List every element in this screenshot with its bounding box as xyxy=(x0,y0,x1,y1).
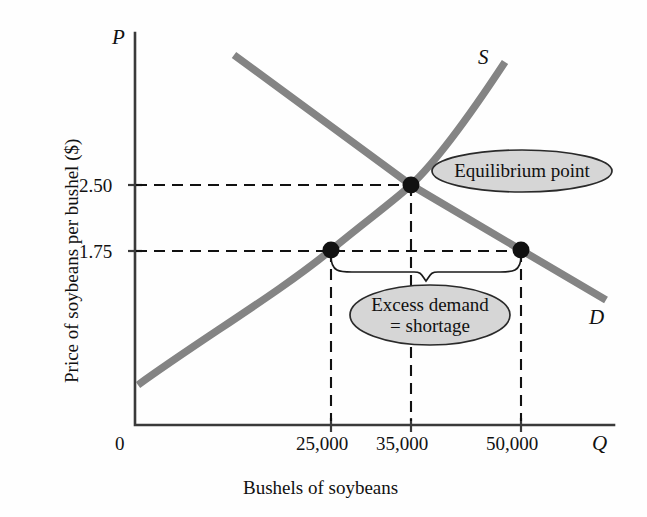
demand-curve-label: D xyxy=(589,307,604,328)
equilibrium-dot xyxy=(403,177,420,194)
y-axis-title: Price of soybeans per bushel ($) xyxy=(62,139,81,383)
x-tick-label-35000: 35,000 xyxy=(376,434,428,453)
origin-label: 0 xyxy=(115,434,125,453)
y-axis-symbol: P xyxy=(112,27,125,48)
x-tick-label-50000: 50,000 xyxy=(486,434,538,453)
x-axis-symbol: Q xyxy=(592,433,607,454)
y-tick-label-175: 1.75 xyxy=(79,242,112,261)
x-axis-title: Bushels of soybeans xyxy=(243,478,398,497)
excess-demand-callout-ellipse xyxy=(350,285,510,345)
axes xyxy=(135,33,614,425)
y-tick-label-250: 2.50 xyxy=(79,176,112,195)
excess-demand-brace xyxy=(331,256,521,281)
x-tick-label-25000: 25,000 xyxy=(296,434,348,453)
supply-demand-figure: P Q S D 0 2.50 1.75 25,000 35,000 50,000… xyxy=(0,0,647,517)
equilibrium-callout-ellipse xyxy=(432,150,612,192)
quantity-supplied-dot xyxy=(323,242,340,259)
quantity-demanded-dot xyxy=(513,242,530,259)
supply-curve-label: S xyxy=(478,47,489,68)
